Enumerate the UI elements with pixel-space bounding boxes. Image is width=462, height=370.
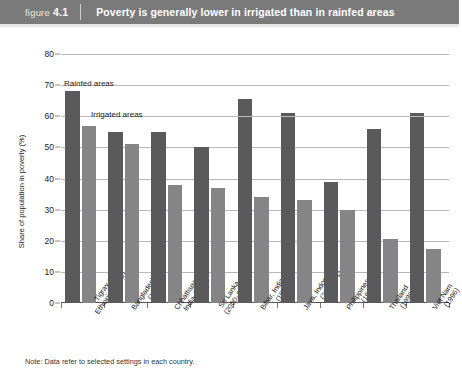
bar-rainfed[interactable] [324,182,339,303]
bar-rainfed[interactable] [410,113,425,303]
bar-irrigated[interactable] [297,200,312,303]
bar-group [151,54,182,303]
y-tick-mark [55,303,60,304]
bar-irrigated[interactable] [211,188,226,303]
figure-word-label: figure [25,7,50,18]
annotation-rainfed: Rainfed areas [64,79,114,88]
y-tick-label: 20 [45,236,54,246]
bar-rainfed[interactable] [151,132,166,303]
y-tick-mark [55,147,60,148]
chart-note: Note: Data refer to selected settings in… [25,357,194,366]
bar-rainfed[interactable] [238,99,253,303]
y-tick-mark [55,240,60,241]
annotation-leader-irrigated [176,116,449,117]
y-tick-label: 30 [45,205,54,215]
page-title: Poverty is generally lower in irrigated … [96,6,394,18]
bar-rainfed[interactable] [367,129,382,303]
bar-irrigated[interactable] [125,144,140,303]
y-tick-mark [55,271,60,272]
figure-header-banner: figure 4.1 Poverty is generally lower in… [0,0,459,24]
y-tick-label: 70 [45,80,54,90]
x-axis-tick [61,303,62,308]
y-tick-label: 60 [45,111,54,121]
bar-group [194,54,225,303]
figure-number-label: 4.1 [53,6,68,18]
y-axis-title: Share of population in poverty (%) [17,102,26,282]
chart-container: Share of population in poverty (%) 01020… [0,27,459,370]
bar-irrigated[interactable] [254,197,269,303]
bar-group [324,54,355,303]
y-tick-mark [55,209,60,210]
y-tick-label: 10 [45,267,54,277]
y-tick-label: 40 [45,174,54,184]
annotation-irrigated: Irrigated areas [91,110,143,119]
y-tick-mark [55,85,60,86]
bar-irrigated[interactable] [340,210,355,303]
header-divider [80,4,81,20]
y-tick-mark [55,178,60,179]
bar-group [281,54,312,303]
bar-group [367,54,398,303]
bar-group [65,54,96,303]
y-tick-label: 0 [49,298,54,308]
bar-group [410,54,441,303]
bar-rainfed[interactable] [281,113,296,303]
bar-irrigated[interactable] [82,126,97,303]
bar-irrigated[interactable] [168,185,183,303]
bar-group [238,54,269,303]
y-tick-label: 50 [45,142,54,152]
y-tick-mark [55,54,60,55]
bar-group [108,54,139,303]
annotation-leader-rainfed [147,85,449,86]
y-tick-mark [55,116,60,117]
y-tick-label: 80 [45,49,54,59]
bar-rainfed[interactable] [194,147,209,303]
bar-rainfed[interactable] [108,132,123,303]
bar-rainfed[interactable] [65,91,80,303]
plot-area: 01020304050607080Tigray area,Ethiopia (2… [61,54,449,303]
